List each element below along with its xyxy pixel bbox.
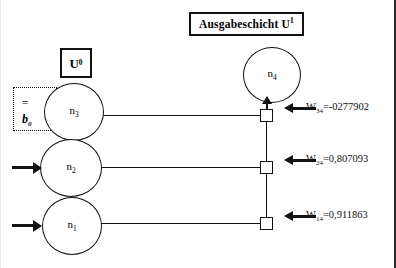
weight-label-w24-subscript: 24 xyxy=(316,159,323,167)
neuron-n1: n1 xyxy=(42,197,102,255)
neuron-n4-index: 4 xyxy=(273,74,277,83)
neuron-n2-label: n2 xyxy=(66,160,75,175)
weight-label-w34: W34=-0277902 xyxy=(306,102,369,115)
neuron-n3: n3 xyxy=(44,83,104,141)
weight-label-w24-value: 0,807093 xyxy=(329,153,368,164)
neuron-n3-label: n3 xyxy=(69,104,78,119)
bias-equals-sign: = xyxy=(22,97,28,108)
connection-line-n3-to-w34 xyxy=(103,115,262,116)
neuron-n2: n2 xyxy=(40,139,102,197)
page-frame-left-edge xyxy=(0,0,1,268)
input-layer-label-box: U0 xyxy=(60,48,92,78)
weight-label-w24: W24=0,807093 xyxy=(306,154,368,167)
weight-label-arrow-w34-head-icon xyxy=(284,103,293,113)
weight-node-w24 xyxy=(260,161,273,174)
weight-label-w14-value: 0,911863 xyxy=(329,209,368,220)
neuron-n3-index: 3 xyxy=(75,111,79,120)
weight-label-w24-symbol: W xyxy=(306,153,316,164)
output-arrow-head-icon xyxy=(262,96,272,104)
weight-label-w34-subscript: 34 xyxy=(316,107,323,115)
bias-symbol: b0 xyxy=(22,113,32,128)
output-layer-title-text: Ausgabeschicht U xyxy=(199,18,290,30)
input-arrow-n1-head-icon xyxy=(33,220,42,232)
weight-label-arrow-w14-head-icon xyxy=(284,211,293,221)
weight-label-w14-subscript: 14 xyxy=(316,215,323,223)
weight-label-arrow-w24-head-icon xyxy=(284,155,293,165)
input-layer-label-superscript: 0 xyxy=(79,59,83,67)
output-layer-title-superscript: 1 xyxy=(290,16,294,25)
neuron-n4: n4 xyxy=(243,47,301,103)
connection-line-n2-to-w24 xyxy=(101,167,262,168)
weight-label-w14: W14=0,911863 xyxy=(306,210,368,223)
neuron-n4-label: n4 xyxy=(267,67,276,82)
neuron-n2-index: 2 xyxy=(72,167,76,176)
weight-label-w34-symbol: W xyxy=(306,101,316,112)
weight-label-w14-symbol: W xyxy=(306,209,316,220)
connection-line-n1-to-w14 xyxy=(101,223,262,224)
bias-symbol-subscript: 0 xyxy=(28,120,32,128)
weight-label-w34-value: -0277902 xyxy=(329,101,369,112)
input-arrow-n2-head-icon xyxy=(33,162,42,174)
output-layer-title-box: Ausgabeschicht U1 xyxy=(189,12,304,36)
input-layer-label-text: U xyxy=(69,57,78,70)
weight-node-w14 xyxy=(260,217,273,230)
neural-network-diagram: Ausgabeschicht U1 U0 = b0 n4 n3 n2 n1 xyxy=(0,0,396,268)
neuron-n1-label: n1 xyxy=(67,218,76,233)
weight-node-w34 xyxy=(260,109,273,122)
neuron-n1-index: 1 xyxy=(73,225,77,234)
